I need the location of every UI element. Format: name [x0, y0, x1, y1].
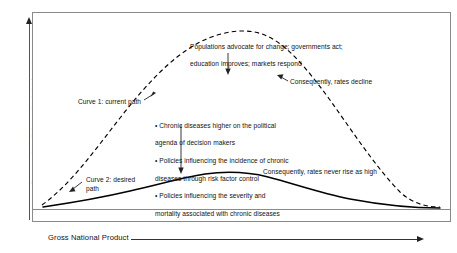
annotation-advocacy: Populations advocate for change; governm… — [190, 34, 350, 77]
curve-1-label: Curve 1: current path — [78, 98, 141, 107]
bullet-2-line-2: diseases through risk factor control — [155, 175, 305, 184]
annotation-advocacy-line2: education improves; markets respond — [190, 60, 350, 69]
annotation-rates-decline: Consequently, rates decline — [290, 78, 372, 87]
bullet-3-line-2: mortality associated with chronic diseas… — [155, 210, 305, 219]
bullet-2-line-1: • Policies influencing the incidence of … — [155, 157, 305, 166]
bullet-3-line-1: • Policies influencing the severity and — [155, 192, 305, 201]
annotation-policy-bullets: • Chronic diseases higher on the politic… — [155, 113, 305, 227]
annotation-advocacy-line1: Populations advocate for change; governm… — [190, 43, 350, 52]
curve-2-label: Curve 2: desired path — [86, 176, 144, 193]
bullet-1-line-1: • Chronic diseases higher on the politic… — [155, 122, 305, 131]
x-axis-line — [131, 239, 419, 240]
x-axis-label: Gross National Product — [48, 233, 129, 242]
x-axis-arrowhead-icon — [417, 236, 424, 242]
figure-container: Consumption (tobacco/high-fat foods) Pop… — [0, 0, 457, 253]
bullet-1-line-2: agenda of decision makers — [155, 139, 305, 148]
